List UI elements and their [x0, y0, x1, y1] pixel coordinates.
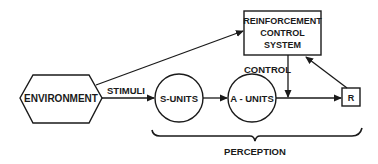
- response-node: R: [342, 88, 360, 106]
- perceptron-diagram: ENVIRONMENT STIMULI REINFORCEMENT CONTRO…: [0, 0, 378, 164]
- reinforcement-label-line3: SYSTEM: [264, 40, 301, 50]
- reinforcement-control-system-node: REINFORCEMENT CONTROL SYSTEM: [243, 11, 322, 55]
- control-label: CONTROL: [244, 64, 291, 75]
- perception-brace: [152, 128, 362, 141]
- s-units-node: S-UNITS: [155, 74, 203, 122]
- reinforcement-label-line2: CONTROL: [260, 28, 305, 38]
- environment-node: ENVIRONMENT: [20, 75, 102, 123]
- response-label: R: [348, 93, 355, 103]
- s-units-label: S-UNITS: [160, 93, 198, 104]
- r-to-reinforcement-arrow: [306, 57, 347, 88]
- a-units-label: A - UNITS: [230, 93, 273, 104]
- env-to-reinforcement-arrow: [96, 31, 243, 85]
- reinforcement-label-line1: REINFORCEMENT: [243, 16, 322, 26]
- perception-label: PERCEPTION: [224, 146, 286, 157]
- environment-label: ENVIRONMENT: [24, 93, 98, 104]
- a-units-node: A - UNITS: [228, 74, 276, 122]
- stimuli-label: STIMULI: [107, 85, 145, 96]
